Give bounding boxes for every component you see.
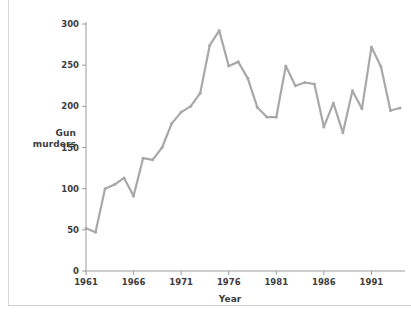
- data-point: [237, 60, 240, 63]
- data-point: [341, 131, 344, 134]
- data-point: [332, 102, 335, 105]
- y-axis-title-line-2: murders: [22, 139, 76, 150]
- data-point: [104, 187, 107, 190]
- chart-figure: 050100150200250300 196119661971197619811…: [0, 0, 411, 316]
- y-axis-tick-label: 50: [67, 225, 79, 235]
- y-axis-tick-label: 0: [73, 266, 79, 276]
- data-point: [170, 122, 173, 125]
- data-point: [265, 116, 268, 119]
- data-point: [151, 158, 154, 161]
- data-point: [399, 106, 402, 109]
- data-point: [379, 65, 382, 68]
- data-point: [294, 84, 297, 87]
- data-point: [180, 111, 183, 114]
- series-line: [86, 31, 400, 233]
- y-axis-tick-label: 200: [61, 101, 79, 111]
- data-point: [351, 89, 354, 92]
- x-axis-tick-label: 1976: [217, 277, 241, 287]
- data-point: [142, 157, 145, 160]
- data-point: [199, 92, 202, 95]
- x-axis-tick-label: 1981: [264, 277, 288, 287]
- y-axis-tick-label: 100: [61, 184, 79, 194]
- data-point: [275, 116, 278, 119]
- data-point: [370, 46, 373, 49]
- data-point: [132, 195, 135, 198]
- data-point: [94, 231, 97, 234]
- x-axis-tick-label: 1991: [360, 277, 384, 287]
- x-axis-tick-label: 1961: [74, 277, 98, 287]
- data-point: [123, 176, 126, 179]
- data-point: [113, 183, 116, 186]
- data-point: [85, 227, 88, 230]
- data-point: [246, 77, 249, 80]
- data-point: [218, 29, 221, 32]
- data-point: [303, 81, 306, 84]
- x-axis: 1961196619711976198119861991: [74, 271, 405, 287]
- data-point: [208, 44, 211, 47]
- data-point: [313, 83, 316, 86]
- x-axis-tick-label: 1966: [122, 277, 146, 287]
- data-series-gun-murders: [85, 29, 402, 234]
- data-point: [389, 109, 392, 112]
- data-point: [256, 106, 259, 109]
- data-point: [161, 146, 164, 149]
- y-axis-tick-label: 300: [61, 19, 79, 29]
- y-axis-title: Gun murders: [22, 128, 76, 150]
- y-axis-tick-label: 250: [61, 60, 79, 70]
- gun-murders-line-chart: 050100150200250300 196119661971197619811…: [0, 0, 411, 316]
- y-axis-title-line-1: Gun: [22, 128, 76, 139]
- data-point: [322, 125, 325, 128]
- data-point: [360, 107, 363, 110]
- data-point: [227, 64, 230, 67]
- data-point: [284, 64, 287, 67]
- x-axis-tick-label: 1986: [312, 277, 336, 287]
- x-axis-title: Year: [190, 294, 270, 304]
- x-axis-tick-label: 1971: [169, 277, 193, 287]
- data-point: [189, 105, 192, 108]
